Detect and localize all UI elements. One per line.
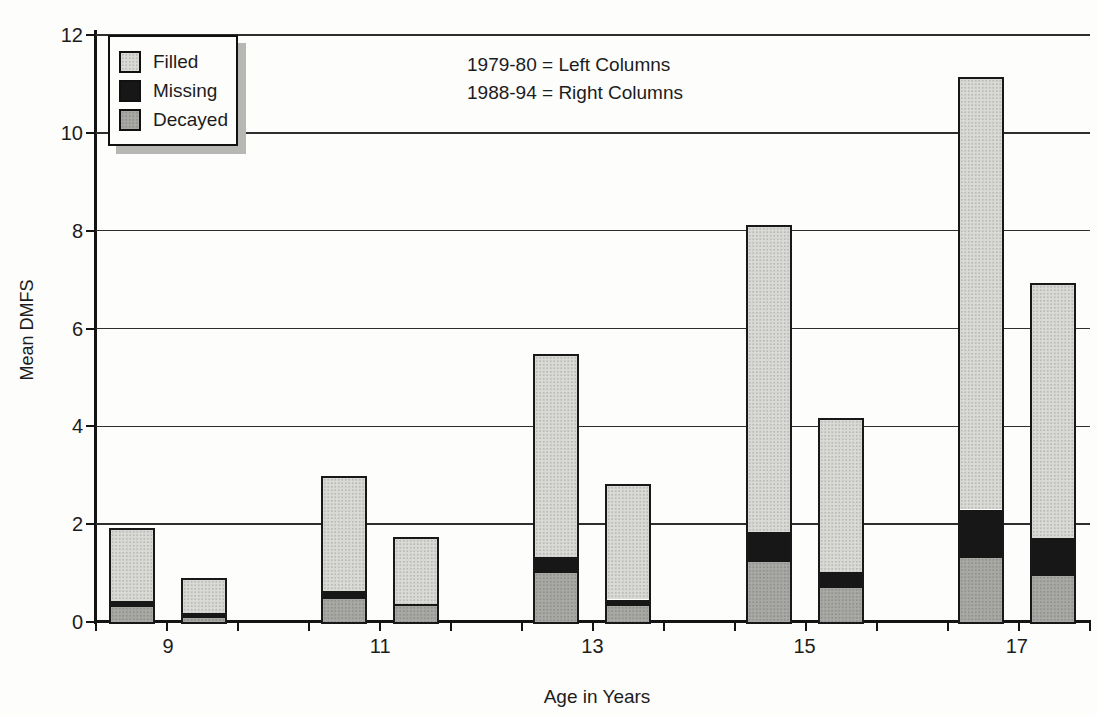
x-tick-11 <box>876 623 878 631</box>
y-tick-6 <box>86 328 95 330</box>
segment-decayed-1988-94-age-17 <box>1032 576 1074 622</box>
legend-label-missing: Missing <box>153 80 217 102</box>
segment-decayed-1979-80-age-9 <box>111 607 153 622</box>
legend-item-decayed: Decayed <box>119 105 226 134</box>
segment-missing-1979-80-age-13 <box>535 557 577 573</box>
segment-decayed-1979-80-age-15 <box>748 562 790 622</box>
x-category-label-17: 17 <box>982 634 1052 658</box>
y-tick-10 <box>86 132 95 134</box>
segment-filled-1988-94-age-9 <box>183 580 225 613</box>
legend-label-decayed: Decayed <box>153 109 228 131</box>
segment-missing-1988-94-age-15 <box>820 572 862 588</box>
y-tick-4 <box>86 425 95 427</box>
x-tick-13 <box>1018 623 1020 631</box>
segment-decayed-1979-80-age-13 <box>535 573 577 622</box>
x-category-label-9: 9 <box>133 634 203 658</box>
y-tick-label-12: 12 <box>33 23 83 47</box>
segment-decayed-1979-80-age-17 <box>960 558 1002 622</box>
bar-1988-94-age-9 <box>181 578 227 624</box>
bar-1988-94-age-13 <box>605 484 651 624</box>
bar-1979-80-age-17 <box>958 77 1004 624</box>
y-tick-label-2: 2 <box>33 512 83 536</box>
y-tick-2 <box>86 523 95 525</box>
y-gridline-6 <box>96 328 1090 330</box>
x-tick-0 <box>95 623 97 631</box>
bar-1988-94-age-11 <box>393 537 439 624</box>
segment-filled-1979-80-age-13 <box>535 356 577 557</box>
annotation-left-columns: 1979-80 = Left Columns <box>467 51 683 79</box>
y-gridline-10 <box>96 132 1090 134</box>
x-tick-2 <box>237 623 239 631</box>
bar-1988-94-age-17 <box>1030 283 1076 624</box>
segment-filled-1988-94-age-17 <box>1032 285 1074 537</box>
y-gridline-2 <box>96 523 1090 525</box>
x-tick-8 <box>663 623 665 631</box>
x-tick-4 <box>379 623 381 631</box>
bar-1979-80-age-11 <box>321 476 367 624</box>
y-gridline-12 <box>96 34 1090 36</box>
legend-item-missing: Missing <box>119 76 226 105</box>
segment-missing-1979-80-age-17 <box>960 510 1002 559</box>
annotation-right-columns: 1988-94 = Right Columns <box>467 79 683 107</box>
segment-missing-1979-80-age-15 <box>748 532 790 561</box>
segment-missing-1988-94-age-9 <box>183 613 225 618</box>
legend-box: Filled Missing Decayed <box>108 35 238 146</box>
y-tick-8 <box>86 230 95 232</box>
y-tick-label-4: 4 <box>33 414 83 438</box>
segment-missing-1988-94-age-17 <box>1032 538 1074 576</box>
segment-missing-1988-94-age-11 <box>395 604 437 606</box>
period-annotation: 1979-80 = Left Columns 1988-94 = Right C… <box>467 51 683 106</box>
x-category-label-15: 15 <box>770 634 840 658</box>
legend-swatch-missing <box>119 80 141 102</box>
y-tick-label-8: 8 <box>33 219 83 243</box>
x-tick-5 <box>450 623 452 631</box>
segment-missing-1979-80-age-9 <box>111 601 153 607</box>
segment-missing-1979-80-age-11 <box>323 591 365 599</box>
legend-swatch-filled <box>119 51 141 73</box>
x-tick-9 <box>734 623 736 631</box>
x-category-label-11: 11 <box>345 634 415 658</box>
legend-label-filled: Filled <box>153 51 198 73</box>
segment-filled-1979-80-age-15 <box>748 227 790 533</box>
legend-item-filled: Filled <box>119 47 226 76</box>
bar-1979-80-age-15 <box>746 225 792 624</box>
x-tick-14 <box>1089 623 1091 631</box>
x-tick-12 <box>947 623 949 631</box>
x-tick-1 <box>166 623 168 631</box>
x-tick-6 <box>521 623 523 631</box>
segment-filled-1979-80-age-11 <box>323 478 365 591</box>
segment-decayed-1988-94-age-15 <box>820 588 862 622</box>
chart-figure: Filled Missing Decayed 1979-80 = Left Co… <box>0 0 1097 716</box>
y-gridline-8 <box>96 230 1090 232</box>
y-tick-label-0: 0 <box>33 610 83 634</box>
segment-decayed-1979-80-age-11 <box>323 599 365 622</box>
x-tick-3 <box>308 623 310 631</box>
bar-1979-80-age-9 <box>109 528 155 624</box>
segment-filled-1988-94-age-13 <box>607 486 649 599</box>
bar-1988-94-age-15 <box>818 418 864 624</box>
bar-1979-80-age-13 <box>533 354 579 624</box>
y-tick-label-10: 10 <box>33 121 83 145</box>
y-tick-label-6: 6 <box>33 317 83 341</box>
x-tick-7 <box>592 623 594 631</box>
segment-decayed-1988-94-age-13 <box>607 606 649 622</box>
x-tick-10 <box>805 623 807 631</box>
segment-filled-1988-94-age-11 <box>395 539 437 604</box>
segment-filled-1979-80-age-17 <box>960 79 1002 509</box>
y-tick-12 <box>86 34 95 36</box>
x-axis-title: Age in Years <box>544 686 651 708</box>
segment-decayed-1988-94-age-9 <box>183 618 225 622</box>
segment-missing-1988-94-age-13 <box>607 600 649 606</box>
y-gridline-4 <box>96 426 1090 428</box>
legend-swatch-decayed <box>119 109 141 131</box>
x-category-label-13: 13 <box>557 634 627 658</box>
segment-decayed-1988-94-age-11 <box>395 606 437 622</box>
y-tick-0 <box>86 621 95 623</box>
segment-filled-1979-80-age-9 <box>111 530 153 601</box>
segment-filled-1988-94-age-15 <box>820 420 862 572</box>
